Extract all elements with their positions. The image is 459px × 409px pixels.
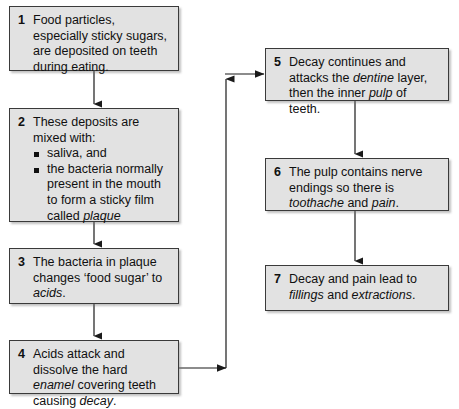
node-2-bullet-list: saliva, and the bacteria normally presen… — [33, 146, 171, 224]
node-7-text: Decay and pain lead to fillings and extr… — [287, 272, 441, 303]
node-1-number: 1 — [18, 13, 31, 29]
list-item: saliva, and — [33, 146, 171, 162]
flowchart-node-6: 6 The pulp contains nerve endings so the… — [265, 158, 449, 211]
node-5-number: 5 — [274, 55, 287, 71]
node-2-lead: These deposits are mixed with: — [33, 115, 171, 146]
node-3-number: 3 — [18, 255, 31, 271]
node-5-text: Decay continues and attacks the dentine … — [287, 55, 441, 117]
list-item: the bacteria normally present in the mou… — [33, 162, 171, 224]
node-4-text: Acids attack and dissolve the hard ename… — [31, 347, 171, 409]
node-2-bullet-1: saliva, and — [47, 146, 107, 160]
node-3-text: The bacteria in plaque changes ‘food sug… — [31, 255, 171, 302]
flowchart-node-4: 4 Acids attack and dissolve the hard ena… — [9, 340, 179, 394]
node-2-bullet-2: the bacteria normally present in the mou… — [47, 162, 163, 223]
node-1-text: Food particles, especially sticky sugars… — [31, 13, 171, 75]
node-4-number: 4 — [18, 347, 31, 363]
node-2-number: 2 — [18, 115, 31, 131]
flowchart-node-3: 3 The bacteria in plaque changes ‘food s… — [9, 248, 179, 304]
flowchart-node-5: 5 Decay continues and attacks the dentin… — [265, 48, 449, 101]
flowchart-node-2: 2 These deposits are mixed with: saliva,… — [9, 108, 179, 222]
flowchart-node-7: 7 Decay and pain lead to fillings and ex… — [265, 265, 449, 311]
node-6-number: 6 — [274, 165, 287, 181]
node-2-italic-plaque: plaque — [83, 209, 121, 223]
node-7-number: 7 — [274, 272, 287, 288]
node-6-text: The pulp contains nerve endings so there… — [287, 165, 441, 212]
node-2-text: These deposits are mixed with: saliva, a… — [31, 115, 171, 224]
flowchart-node-1: 1 Food particles, especially sticky suga… — [9, 6, 179, 71]
